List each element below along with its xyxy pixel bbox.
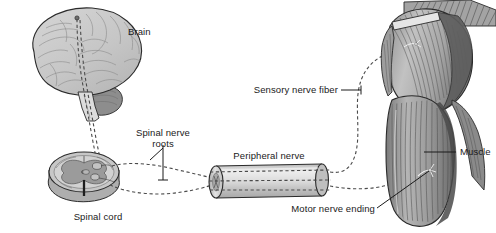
neuron-cell-body	[83, 170, 90, 175]
peripheral-nerve-structure	[209, 164, 331, 198]
label-spinal-cord: Spinal cord	[74, 211, 123, 222]
brain-structure	[33, 8, 142, 121]
label-brain: Brain	[128, 26, 151, 37]
label-motor-nerve-ending: Motor nerve ending	[291, 203, 375, 214]
nervous-system-diagram: Brain Spinal nerve roots Spinal cord Per…	[0, 0, 496, 233]
label-spinal-nerve-roots-line1: Spinal nerve	[136, 127, 190, 138]
neuron-cell-body	[92, 163, 101, 170]
label-peripheral-nerve: Peripheral nerve	[233, 150, 304, 161]
label-spinal-nerve-roots-line2: roots	[152, 138, 174, 149]
neuron-cell-body	[91, 174, 99, 180]
label-muscle: Muscle	[460, 146, 491, 157]
spinal-cord-structure	[48, 152, 119, 202]
posterior-muscle-sliver	[452, 100, 485, 190]
spinal-nerve-root-paths	[110, 163, 212, 193]
label-sensory-nerve-fiber: Sensory nerve fiber	[254, 84, 338, 95]
diagram-canvas: Brain Spinal nerve roots Spinal cord Per…	[0, 0, 496, 233]
